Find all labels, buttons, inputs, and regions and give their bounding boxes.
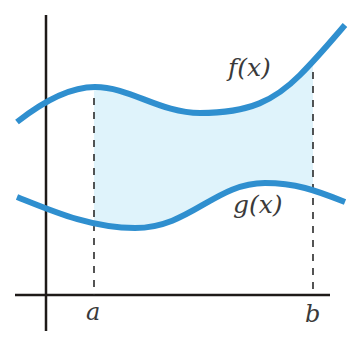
label-b: b: [305, 300, 320, 328]
area-between-curves-diagram: f(x) g(x) a b: [0, 0, 359, 346]
label-g: g(x): [233, 190, 283, 219]
label-f: f(x): [226, 53, 271, 82]
label-a: a: [86, 298, 100, 326]
